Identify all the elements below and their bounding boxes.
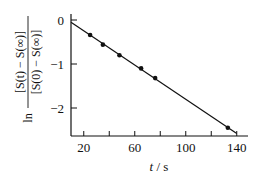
y-tick-label: −2 [50,101,64,116]
plot-area: 0−1−2 2060100140 [50,13,248,156]
y-tick-label: 0 [58,13,65,28]
y-axis-title-numerator: [S(t) − S(∞)] [13,31,27,93]
x-tick-label: 140 [227,140,247,155]
data-point [101,42,106,47]
x-axis-title: t / s [150,159,169,174]
data-point [88,33,93,38]
data-point [226,126,231,131]
x-tick-label: 20 [77,140,90,155]
y-tick-label: −1 [50,57,64,72]
y-axis-title-denominator: [S(0) − S(∞)] [29,30,43,95]
data-point [139,66,144,71]
y-ticks: 0−1−2 [50,13,77,116]
y-axis-title: ln [S(t) − S(∞)] [S(0) − S(∞)] [13,16,43,123]
data-point [117,53,122,58]
y-axis-title-prefix: ln [21,113,35,122]
x-ticks: 2060100140 [77,131,246,155]
data-series [71,22,237,133]
x-tick-label: 60 [128,140,141,155]
chart: 0−1−2 2060100140 t / s ln [S(t) − S(∞)] … [0,0,262,176]
data-point [153,76,158,81]
x-tick-label: 100 [176,140,196,155]
